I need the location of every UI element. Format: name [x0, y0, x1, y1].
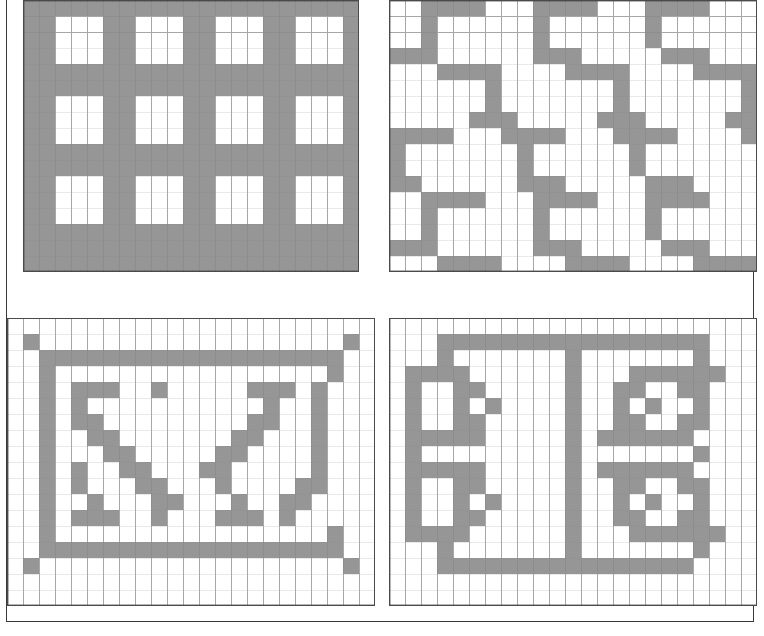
panel-bottom-left-inner: [7, 318, 375, 606]
panel-grid-container: [0, 0, 764, 636]
panel-bottom-right: [382, 318, 764, 636]
panel-top-left: [0, 0, 382, 318]
panel-bottom-left: [0, 318, 382, 636]
maze-nested-squares-pattern: [389, 318, 757, 606]
zigzag-stair-pattern: [389, 0, 757, 272]
panel-top-right: [382, 0, 764, 318]
panel-top-right-inner: [389, 0, 757, 272]
panel-bottom-right-inner: [389, 318, 757, 606]
page-canvas: [0, 0, 764, 636]
panel-top-left-inner: [23, 0, 359, 272]
lattice-grid-pattern: [23, 0, 359, 272]
framed-z-glyph-pattern: [7, 318, 375, 606]
